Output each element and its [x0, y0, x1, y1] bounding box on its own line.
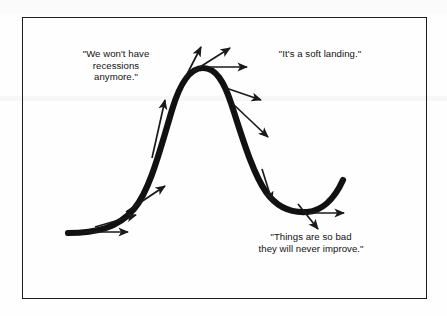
figure-page: "We won't have recessions anymore." "It'… [0, 0, 447, 316]
caption-never-improve: "Things are so bad they will never impro… [238, 231, 384, 254]
caption-no-recessions: "We won't have recessions anymore." [60, 48, 172, 83]
caption-soft-landing: "It's a soft landing." [258, 48, 382, 60]
